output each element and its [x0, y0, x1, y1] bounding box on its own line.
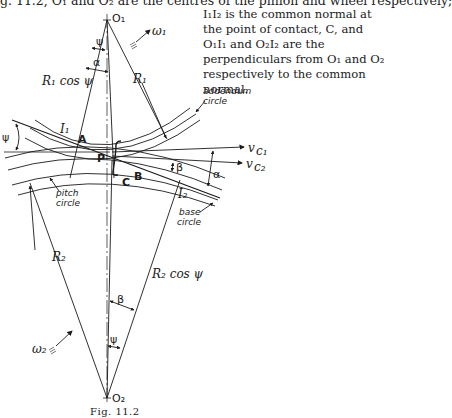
label-r2-cos-psi: R₂ cos ψ	[151, 267, 204, 281]
label-base: base	[179, 207, 201, 217]
label-r1-cos-psi: R₁ cos ψ	[41, 74, 94, 88]
label-i1: I₁	[59, 122, 70, 136]
label-base-circle: circle	[177, 217, 202, 227]
label-omega2: ω₂	[32, 342, 47, 356]
o1-to-c-line	[107, 20, 114, 178]
svg-text:v: v	[248, 141, 255, 155]
label-c: C	[122, 176, 130, 189]
label-alpha-right: α	[213, 168, 220, 181]
label-psi-left: ψ	[2, 131, 9, 144]
figure-caption: Fig. 11.2	[90, 406, 140, 417]
label-psi-top: ψ	[96, 35, 103, 48]
label-addendum-circle: circle	[203, 96, 228, 106]
r2-line	[30, 183, 107, 398]
label-pitch-circle: circle	[56, 198, 81, 208]
omega1-arrow	[136, 30, 150, 42]
label-i2: I₂	[177, 187, 188, 201]
common-normal	[12, 120, 220, 198]
svg-text:c₂: c₂	[254, 160, 266, 174]
label-beta-bottom: β	[117, 293, 124, 306]
label-o2: O₂	[112, 392, 125, 405]
svg-text:c₁: c₁	[256, 144, 268, 158]
label-a: A	[78, 133, 87, 146]
label-omega1: ω₁	[152, 24, 167, 38]
label-p: P	[97, 152, 105, 165]
label-b: B	[134, 170, 142, 183]
label-vc1: v c₁	[248, 141, 268, 158]
o2-to-c-line	[107, 160, 112, 398]
label-addendum: addendum	[203, 86, 252, 96]
label-beta-mid: β	[176, 161, 183, 174]
label-o1: O₁	[112, 12, 125, 25]
label-pitch: pitch	[55, 188, 79, 198]
label-psi-bottom: ψ	[110, 333, 117, 346]
label-r2: R₂	[51, 250, 66, 264]
svg-text:v: v	[246, 157, 253, 171]
vc1-arrow	[112, 147, 244, 152]
label-r1: R₁	[132, 72, 147, 86]
r2-cos-line	[107, 180, 180, 398]
omega2-arrow	[56, 331, 72, 346]
label-alpha-top: α	[93, 56, 100, 69]
label-vc2: v c₂	[246, 157, 266, 174]
